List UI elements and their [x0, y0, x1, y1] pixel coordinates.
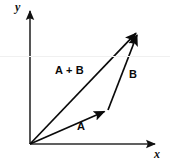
- x-axis-label: x: [154, 148, 160, 160]
- y-axis-label: y: [15, 1, 20, 13]
- vector-addition-figure: y x A B A + B: [0, 0, 170, 163]
- vector-a-arrow: [30, 112, 105, 145]
- vector-sum-label: A + B: [55, 65, 84, 76]
- vector-a-label: A: [77, 121, 85, 132]
- vector-b-label: B: [129, 69, 137, 80]
- vector-diagram-canvas: [0, 0, 170, 163]
